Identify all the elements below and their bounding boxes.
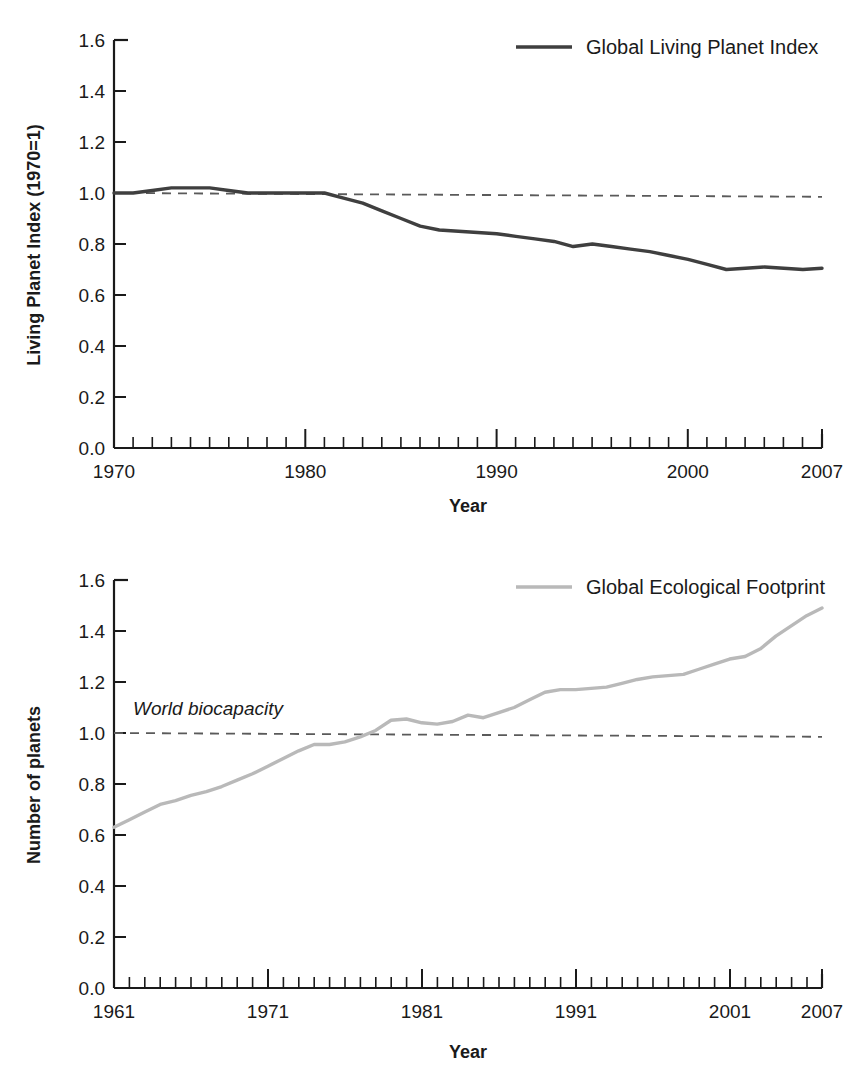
x-tick-label: 1971	[247, 1001, 289, 1022]
x-minor-ticks-top	[133, 437, 802, 448]
chart-global-living-planet-index: Living Planet Index (1970=1) 1.6 1.4 1.2…	[0, 0, 862, 540]
y-tick-label: 1.2	[79, 672, 105, 693]
y-tick-label: 0.4	[79, 336, 106, 357]
x-tick-label: 1980	[284, 461, 326, 482]
y-tick-label: 1.0	[79, 183, 105, 204]
x-tick-label: 2000	[667, 461, 709, 482]
y-tick-label: 0.8	[79, 774, 105, 795]
legend-top: Global Living Planet Index	[516, 36, 818, 58]
x-tick-label: 1981	[401, 1001, 443, 1022]
y-tick-label: 1.6	[79, 30, 105, 51]
chart-global-ecological-footprint: Number of planets 1.6 1.4 1.2 1.0 0.8 0.…	[0, 540, 862, 1078]
x-tick-labels-top: 1970 1980 1990 2000 2007	[93, 461, 843, 482]
y-tick-labels-bottom: 1.6 1.4 1.2 1.0 0.8 0.6 0.4 0.2 0.0	[79, 570, 106, 999]
x-tick-label: 2007	[801, 1001, 843, 1022]
legend-label-bottom: Global Ecological Footprint	[586, 576, 825, 598]
y-axis-title-bottom-text: Number of planets	[24, 706, 44, 864]
y-tick-label: 0.0	[79, 438, 105, 459]
reference-line-world-biocapacity	[114, 733, 822, 737]
y-tick-label: 0.4	[79, 876, 106, 897]
x-tick-label: 2001	[709, 1001, 751, 1022]
x-tick-labels-bottom: 1961 1971 1981 1991 2001 2007	[93, 1001, 843, 1022]
y-axis-title-top-text: Living Planet Index (1970=1)	[24, 124, 44, 366]
x-tick-label: 1970	[93, 461, 135, 482]
x-tick-label: 1990	[475, 461, 517, 482]
y-tick-label: 1.2	[79, 132, 105, 153]
y-tick-label: 1.4	[79, 81, 106, 102]
y-tick-label: 0.2	[79, 927, 105, 948]
y-tick-label: 0.0	[79, 978, 105, 999]
y-ticks-top	[114, 40, 126, 448]
y-tick-label: 1.4	[79, 621, 106, 642]
chart-bottom-svg: Number of planets 1.6 1.4 1.2 1.0 0.8 0.…	[0, 540, 862, 1078]
y-tick-label: 1.6	[79, 570, 105, 591]
y-tick-label: 0.2	[79, 387, 105, 408]
x-tick-label: 2007	[801, 461, 843, 482]
legend-label-top: Global Living Planet Index	[586, 36, 818, 58]
reference-line-baseline	[114, 193, 822, 197]
y-tick-labels-top: 1.6 1.4 1.2 1.0 0.8 0.6 0.4 0.2 0.0	[79, 30, 106, 459]
legend-bottom: Global Ecological Footprint	[516, 576, 825, 598]
y-axis-title-bottom: Number of planets	[24, 706, 44, 864]
series-line-global-living-planet-index	[114, 188, 822, 270]
y-tick-label: 0.8	[79, 234, 105, 255]
x-tick-label: 1991	[555, 1001, 597, 1022]
y-ticks-bottom	[114, 580, 126, 988]
x-major-ticks-top	[114, 429, 822, 448]
x-axis-title-bottom: Year	[449, 1042, 487, 1062]
x-axis-title-top: Year	[449, 496, 487, 516]
x-minor-ticks-bottom	[129, 977, 807, 988]
y-tick-label: 1.0	[79, 723, 105, 744]
chart-top-svg: Living Planet Index (1970=1) 1.6 1.4 1.2…	[0, 0, 862, 540]
annotation-world-biocapacity: World biocapacity	[133, 698, 284, 719]
x-tick-label: 1961	[93, 1001, 135, 1022]
y-axis-title-top: Living Planet Index (1970=1)	[24, 124, 44, 366]
y-tick-label: 0.6	[79, 825, 105, 846]
y-tick-label: 0.6	[79, 285, 105, 306]
